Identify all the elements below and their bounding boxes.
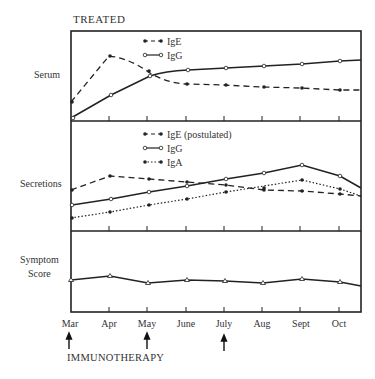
immunotherapy-chart: TREATED Serum Secretions Symptom Score I… bbox=[0, 0, 375, 379]
immunotherapy-label: IMMUNOTHERAPY bbox=[67, 352, 164, 363]
panel-label-symptom-line1: Symptom bbox=[20, 254, 59, 265]
panel-label-symptom-line2: Score bbox=[28, 268, 51, 279]
immunotherapy-arrows bbox=[67, 333, 227, 351]
secretions-ige-series bbox=[70, 174, 361, 196]
month-label: May bbox=[138, 318, 156, 329]
month-label: July bbox=[216, 318, 233, 329]
chart-title: TREATED bbox=[73, 13, 125, 25]
arrow-up-icon bbox=[145, 333, 150, 339]
month-label: Sept bbox=[292, 318, 310, 329]
month-label: Apr bbox=[101, 318, 117, 329]
month-label: Aug bbox=[253, 318, 270, 329]
month-label: Oct bbox=[332, 318, 347, 329]
legend-secretions-iga: IgA bbox=[167, 157, 183, 168]
legend-serum-igg: IgG bbox=[167, 50, 183, 61]
symptom-score-series bbox=[69, 274, 362, 287]
chart-frame bbox=[71, 31, 361, 312]
legend-secretions-ige: IgE (postulated) bbox=[167, 129, 232, 141]
arrow-up-icon bbox=[222, 335, 227, 341]
panel-label-serum: Serum bbox=[34, 69, 60, 80]
arrow-up-icon bbox=[67, 333, 72, 339]
month-label: Mar bbox=[62, 318, 79, 329]
legend-secretions-igg: IgG bbox=[167, 143, 183, 154]
month-label: June bbox=[177, 318, 196, 329]
serum-legend: IgE IgG bbox=[143, 36, 182, 61]
secretions-igg-series bbox=[70, 163, 361, 207]
serum-ige-series bbox=[70, 54, 361, 104]
panel-label-secretions: Secretions bbox=[20, 178, 62, 189]
x-axis-labels: Mar Apr May June July Aug Sept Oct bbox=[62, 318, 347, 329]
legend-serum-ige: IgE bbox=[167, 36, 181, 47]
secretions-legend: IgE (postulated) IgG IgA bbox=[143, 129, 232, 168]
